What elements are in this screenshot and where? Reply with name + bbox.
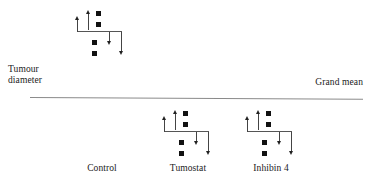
group-mean-bar [77, 31, 122, 32]
arrowhead-up-icon [245, 116, 249, 120]
arrowhead-up-icon [256, 110, 260, 114]
arrowhead-up-icon [162, 116, 166, 120]
arrowhead-up-icon [86, 10, 90, 14]
y-axis-label: Tumour diameter [8, 64, 42, 86]
data-point [96, 22, 101, 27]
arrowhead-down-icon [107, 41, 111, 45]
group-cluster-control [72, 6, 142, 58]
group-label-inhibin4: Inhibin 4 [231, 163, 311, 174]
data-point [92, 51, 97, 56]
arrowhead-down-icon [277, 141, 281, 145]
grand-mean-label: Grand mean [315, 77, 363, 88]
deviation-arrow-up [88, 12, 89, 30]
group-mean-bar [164, 131, 209, 132]
data-point [183, 122, 188, 127]
arrowhead-up-icon [75, 16, 79, 20]
arrowhead-up-icon [173, 110, 177, 114]
data-point [179, 151, 184, 156]
arrowhead-down-icon [206, 151, 210, 155]
arrowhead-down-icon [119, 51, 123, 55]
deviation-arrow-up [258, 112, 259, 130]
data-point [266, 122, 271, 127]
group-label-control: Control [62, 163, 142, 174]
deviation-arrow-up [247, 118, 248, 132]
data-point [262, 151, 267, 156]
data-point [92, 40, 97, 45]
data-point [179, 140, 184, 145]
deviation-arrow-up [77, 18, 78, 32]
deviation-arrow-up [164, 118, 165, 132]
group-label-tumostat: Tumostat [148, 163, 228, 174]
group-cluster-tumostat [159, 106, 229, 158]
data-point [266, 111, 271, 116]
data-point [183, 111, 188, 116]
group-cluster-inhibin4 [242, 106, 312, 158]
deviation-arrow-down [208, 132, 209, 153]
arrowhead-down-icon [194, 141, 198, 145]
data-point [262, 140, 267, 145]
group-mean-bar [247, 131, 292, 132]
grand-mean-line [30, 97, 363, 100]
deviation-arrow-up [175, 112, 176, 130]
deviation-arrow-down [121, 32, 122, 53]
data-point [96, 11, 101, 16]
tumour-diameter-dot-plot: Tumour diameter Grand mean [0, 0, 367, 193]
deviation-arrow-down [291, 132, 292, 153]
arrowhead-down-icon [289, 151, 293, 155]
